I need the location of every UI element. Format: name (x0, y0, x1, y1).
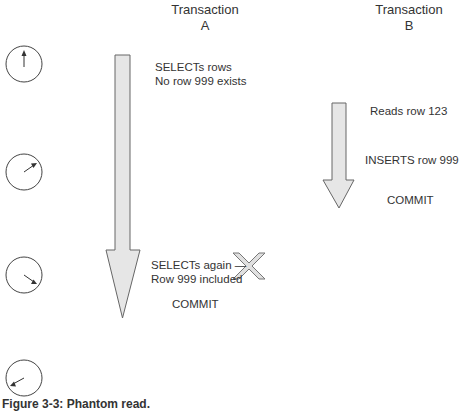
transaction-a-header: Transaction A (165, 2, 245, 34)
a-step1-label: SELECTs rows No row 999 exists (155, 60, 246, 88)
a-step2-label: SELECTs again — Row 999 included (151, 258, 246, 286)
b-step1-label: Reads row 123 (370, 104, 447, 118)
clock-icon-3 (6, 257, 42, 293)
clock-icon-1 (6, 46, 42, 82)
column-sub: A (165, 18, 245, 34)
transaction-b-header: Transaction B (369, 2, 449, 34)
figure-caption: Figure 3-3: Phantom read. (2, 397, 150, 411)
column-title: Transaction (369, 2, 449, 18)
text-line: SELECTs again — (151, 258, 246, 272)
clock-icon-2 (6, 154, 42, 190)
transaction-a-arrow (106, 55, 140, 318)
text-line: SELECTs rows (155, 60, 246, 74)
text-line: Row 999 included (151, 272, 246, 286)
column-title: Transaction (165, 2, 245, 18)
a-commit-label: COMMIT (172, 297, 219, 311)
transaction-b-arrow (323, 103, 354, 208)
clock-icon-4 (6, 360, 42, 396)
text-line: No row 999 exists (155, 74, 246, 88)
b-step2-label: INSERTS row 999 (365, 153, 459, 167)
column-sub: B (369, 18, 449, 34)
b-commit-label: COMMIT (387, 193, 434, 207)
